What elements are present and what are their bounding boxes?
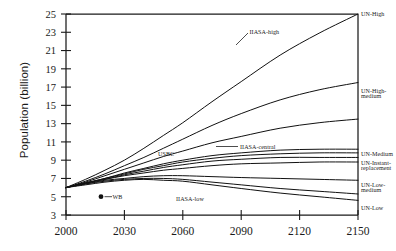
y-axis-label: Population (billion) [18,45,30,175]
y-tick-label-13: 13 [46,118,57,129]
y-tick-label-7: 7 [51,173,56,184]
x-tick-label-2000: 2000 [55,225,78,237]
y-tick-label-3: 3 [51,210,56,221]
series-lines-group [66,14,358,200]
x-tick-label-2120: 2120 [288,225,311,237]
y-tick-label-5: 5 [51,192,56,203]
y-tick-label-9: 9 [51,155,56,166]
series-label-un-instant-replacement-line2: replacement [361,165,392,171]
x-tick-label-2060: 2060 [171,225,194,237]
series-line-un-instant-replacement [66,162,358,188]
series-label-un-low: UN-Low [361,205,384,211]
series-label-usbc: USBC [158,151,174,157]
series-line-iiasa-low [66,178,358,194]
right-labels-group: UN-High UN-High- medium UN-Medium UN-Ins… [361,11,393,211]
y-tick-label-25: 25 [46,9,57,20]
x-tick-label-2090: 2090 [230,225,253,237]
wb-legend-annotation: WB [99,194,123,200]
y-tick-labels-group: 25 23 21 19 17 15 13 11 9 7 5 3 [46,9,57,221]
series-label-un-low-medium-line2: medium [361,187,381,193]
y-tick-label-17: 17 [46,82,57,93]
series-line-iiasa-high [66,83,358,188]
y-tick-label-11: 11 [46,137,56,148]
x-tick-label-2030: 2030 [113,225,136,237]
series-label-un-high: UN-High [361,11,384,17]
x-tick-labels-group: 2000 2030 2060 2090 2120 2150 [55,225,370,237]
wb-marker-dot [99,194,104,199]
wb-legend-label: WB [113,194,123,200]
population-projection-chart: Population (billion) [0,0,396,251]
y-tick-label-19: 19 [46,64,57,75]
series-label-iiasa-central: IIASA-central [240,144,276,150]
x-tick-label-2150: 2150 [347,225,370,237]
series-label-iiasa-low: IIASA-low [176,196,204,202]
y-tick-label-23: 23 [46,27,57,38]
y-tick-label-15: 15 [46,100,57,111]
y-tick-label-21: 21 [46,45,57,56]
iiasa-high-leader-line [236,33,248,45]
chart-canvas: 25 23 21 19 17 15 13 11 9 7 5 3 2000 203… [0,0,396,251]
series-label-un-medium: UN-Medium [361,151,393,157]
series-label-iiasa-high: IIASA-high [250,29,280,35]
series-label-un-high-medium-line2: medium [361,93,381,99]
